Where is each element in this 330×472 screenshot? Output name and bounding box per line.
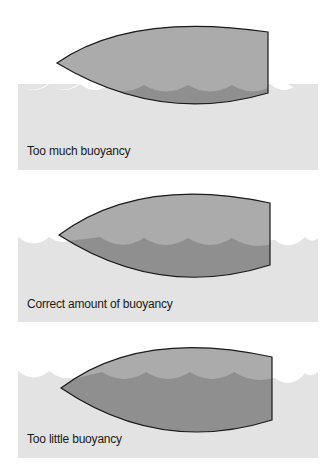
buoyancy-diagram bbox=[0, 0, 330, 472]
label-too-much-buoyancy: Too much buoyancy bbox=[27, 144, 130, 158]
label-too-little-buoyancy: Too little buoyancy bbox=[27, 432, 122, 446]
label-correct-buoyancy: Correct amount of buoyancy bbox=[27, 297, 173, 311]
